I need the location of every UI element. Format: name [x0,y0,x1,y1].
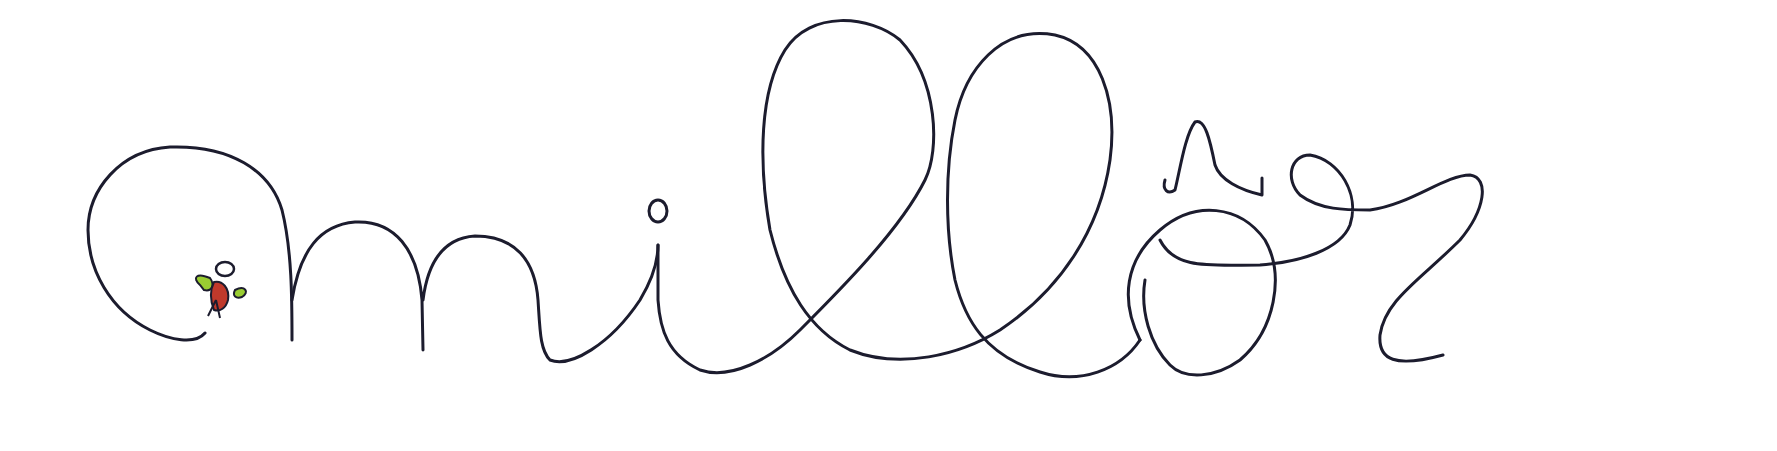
angel-figure [196,262,246,318]
signature-canvas: millôr [0,0,1777,451]
signature-stroke-o [1128,210,1275,375]
signature-stroke-circumflex [1164,122,1262,195]
signature-stroke-m-loop [88,147,292,340]
signature-drawing [0,0,1777,451]
signature-stroke-i [658,21,1140,377]
signature-stroke-r [1160,155,1482,361]
i-dot [649,200,667,222]
signature-stroke-m-humps [292,222,658,362]
